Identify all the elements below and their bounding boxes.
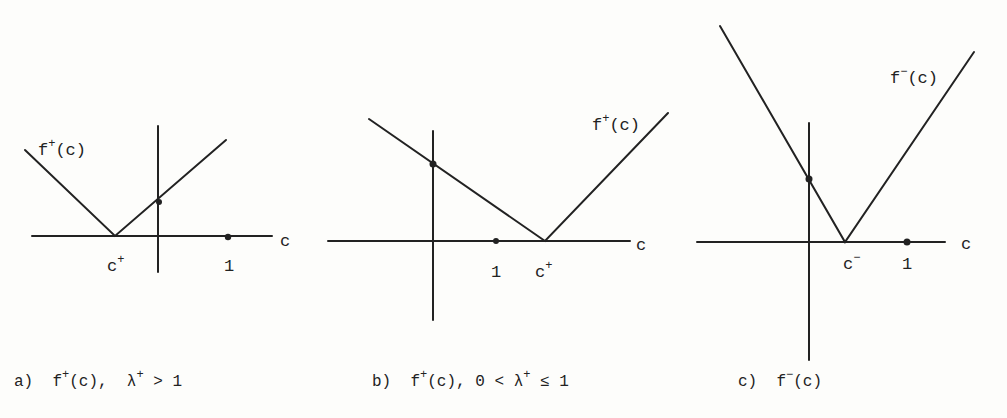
caption-prefix: a) — [14, 373, 33, 391]
label-arg: (c) — [55, 141, 86, 160]
label-sup: + — [545, 259, 552, 273]
caption-condition: > 1 — [153, 373, 182, 391]
caption-func-sup: − — [786, 368, 793, 382]
caption-func-arg: (c), 0 < — [427, 373, 504, 391]
caption-lambda: λ — [127, 373, 137, 391]
caption-prefix: c) — [738, 373, 757, 391]
label-arg: (c) — [907, 69, 938, 88]
panel-c-one-label: 1 — [902, 256, 912, 273]
caption-condition: 1 — [559, 373, 569, 391]
panel-c-caption: c) f−(c) — [738, 374, 822, 390]
label-base: f — [38, 141, 48, 160]
panel-a-curve-label: f+(c) — [38, 142, 86, 159]
panel-a-intercept-dot — [156, 199, 162, 205]
caption-relation: ≤ — [540, 373, 550, 391]
panel-b-caption: b) f+(c), 0 < λ+ ≤ 1 — [372, 374, 569, 390]
caption-lambda: λ — [514, 373, 524, 391]
panel-b-curve-label: f+(c) — [592, 117, 640, 134]
panel-a-one-dot — [225, 234, 231, 240]
panel-a-axis-label: c — [280, 233, 290, 250]
caption-func: f — [410, 373, 420, 391]
label-base: c — [107, 257, 117, 276]
label-sup: + — [602, 112, 609, 126]
label-sup: − — [900, 65, 907, 79]
caption-lambda-sup: + — [523, 368, 530, 382]
panel-a-caption: a) f+(c), λ+ > 1 — [14, 374, 182, 390]
label-base: f — [592, 116, 602, 135]
panel-c-one-dot — [904, 239, 911, 246]
panel-b-axis-label: c — [636, 237, 646, 254]
label-base: c — [843, 255, 853, 274]
panel-c-vertex-label: c− — [843, 256, 860, 273]
panel-b-one-label: 1 — [491, 264, 501, 281]
panel-c-intercept-dot — [806, 176, 813, 183]
panel-c-curve — [720, 26, 974, 242]
caption-func: f — [776, 373, 786, 391]
label-sup: − — [853, 251, 860, 265]
caption-func-arg: (c) — [793, 373, 822, 391]
label-sup: + — [117, 253, 124, 267]
panel-a-vertex-label: c+ — [107, 258, 124, 275]
diagram-canvas — [0, 0, 1007, 418]
caption-func: f — [52, 373, 62, 391]
label-base: f — [890, 69, 900, 88]
panel-a-one-label: 1 — [224, 258, 234, 275]
label-arg: (c) — [609, 116, 640, 135]
caption-prefix: b) — [372, 373, 391, 391]
label-base: c — [535, 263, 545, 282]
caption-lambda-sup: + — [136, 368, 143, 382]
panel-b-one-dot — [493, 238, 499, 244]
label-sup: + — [48, 137, 55, 151]
caption-func-sup: + — [62, 368, 69, 382]
panel-b-intercept-dot — [430, 161, 437, 168]
panel-c-curve-label: f−(c) — [890, 70, 938, 87]
panel-b-vertex-label: c+ — [535, 264, 552, 281]
caption-func-sup: + — [420, 368, 427, 382]
panel-c-axis-label: c — [961, 236, 971, 253]
caption-func-arg: (c), — [69, 373, 107, 391]
